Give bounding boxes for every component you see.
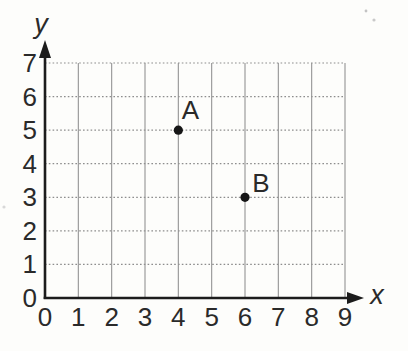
y-tick-label: 7 <box>23 48 37 78</box>
data-point-B <box>240 193 249 202</box>
x-tick-label: 5 <box>204 302 218 332</box>
y-tick-label: 3 <box>23 182 37 212</box>
x-tick-label: 1 <box>71 302 85 332</box>
y-tick-label: 4 <box>23 149 37 179</box>
y-tick-label: 0 <box>23 283 37 313</box>
x-tick-label: 7 <box>271 302 285 332</box>
chart-svg: yx012345670123456789AB <box>0 0 408 351</box>
y-tick-label: 6 <box>23 82 37 112</box>
x-tick-label: 0 <box>38 302 52 332</box>
x-tick-label: 4 <box>171 302 185 332</box>
x-tick-label: 6 <box>238 302 252 332</box>
y-tick-label: 1 <box>23 249 37 279</box>
scan-speck <box>2 205 5 208</box>
y-axis-label: y <box>32 9 49 39</box>
x-tick-label: 9 <box>338 302 352 332</box>
coordinate-plane-figure: yx012345670123456789AB <box>0 0 408 351</box>
point-label-B: B <box>252 168 269 198</box>
data-point-A <box>174 126 183 135</box>
y-tick-label: 2 <box>23 216 37 246</box>
x-tick-label: 2 <box>104 302 118 332</box>
point-label-A: A <box>182 95 200 125</box>
scan-speck <box>372 18 375 21</box>
x-tick-label: 8 <box>304 302 318 332</box>
scan-speck <box>365 10 368 13</box>
y-tick-label: 5 <box>23 115 37 145</box>
x-axis-label: x <box>368 280 385 310</box>
x-tick-label: 3 <box>138 302 152 332</box>
